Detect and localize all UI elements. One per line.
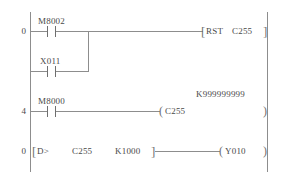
- left-power-rail: [30, 12, 31, 172]
- contact-m8000-icon[interactable]: [47, 106, 56, 117]
- rung-3-compare-operand-2: K1000: [115, 146, 141, 156]
- rung-1-operand-c255: C255: [232, 26, 252, 36]
- rung-1-wire-right: [56, 31, 203, 32]
- rung-1-close-bracket: ]: [263, 25, 267, 38]
- rung-2-contact-1-label: M8000: [38, 96, 65, 106]
- rung-2-coil-label-c255: C255: [165, 106, 185, 116]
- rung-3-coil-open-paren: (: [219, 145, 223, 157]
- rung-3-compare-operand-1: C255: [72, 146, 92, 156]
- rung-2-wire-left: [30, 111, 47, 112]
- rung-3-step-number: 0: [12, 146, 26, 156]
- rung-3-compare-open-bracket: [: [32, 145, 36, 158]
- rung-1-branch-wire-right: [56, 71, 89, 72]
- rung-1-contact-2-label: X011: [40, 56, 60, 66]
- rung-1-contact-1-label: M8002: [38, 16, 65, 26]
- rung-3-compare-mnemonic: D>: [37, 146, 49, 156]
- rung-2-coil-open-paren: (: [159, 105, 163, 117]
- rung-2-coil-close-paren: ): [263, 105, 267, 117]
- rung-1-open-bracket: [: [201, 25, 205, 38]
- contact-m8002-icon[interactable]: [47, 26, 56, 37]
- rung-1-mnemonic-rst: RST: [206, 26, 223, 36]
- rung-1-step-number: 0: [12, 26, 26, 36]
- rung-1-branch-connector: [88, 31, 89, 71]
- rung-3-coil-label-y010: Y010: [225, 146, 246, 156]
- rung-1-branch-wire-left: [30, 71, 47, 72]
- rung-2-step-number: 4: [12, 106, 26, 116]
- rung-3-coil-close-paren: ): [263, 145, 267, 157]
- rung-1-wire-left: [30, 31, 47, 32]
- rung-2-counter-preset: K999999999: [196, 89, 245, 99]
- rung-2-wire-right: [56, 111, 160, 112]
- rung-3-wire-right: [155, 151, 220, 152]
- contact-x011-icon[interactable]: [47, 66, 56, 77]
- ladder-diagram-canvas: 0 M8002 [ RST C255 ] X011 4 M8000 K99999…: [0, 0, 284, 182]
